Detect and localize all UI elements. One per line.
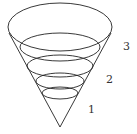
cross-section-3 bbox=[27, 55, 93, 77]
cone-diagram: 3 2 1 bbox=[0, 0, 137, 134]
cross-section-top bbox=[8, 3, 112, 51]
label-level-1: 1 bbox=[88, 103, 95, 116]
cone-right-edge bbox=[60, 33, 111, 127]
label-level-2: 2 bbox=[106, 73, 113, 86]
label-level-3: 3 bbox=[123, 40, 130, 53]
cone-left-edge bbox=[9, 33, 60, 127]
